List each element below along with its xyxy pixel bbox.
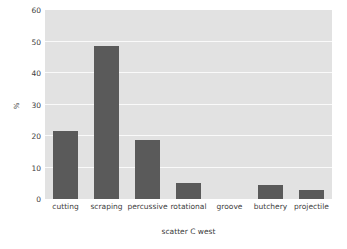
bar-series <box>45 10 332 199</box>
x-tick-label: groove <box>209 201 250 215</box>
y-axis-tick-labels: 0102030405060 <box>0 10 41 199</box>
bar[interactable] <box>299 190 324 199</box>
bar[interactable] <box>94 46 119 199</box>
x-axis-tick-labels: cuttingscrapingpercussiverotationalgroov… <box>45 201 332 215</box>
bar[interactable] <box>135 140 160 199</box>
y-tick-label: 40 <box>5 69 41 78</box>
x-axis-label: scatter C west <box>45 227 332 236</box>
bar[interactable] <box>53 131 78 199</box>
bar-slot <box>209 10 250 199</box>
y-tick-label: 20 <box>5 132 41 141</box>
y-tick-label: 50 <box>5 37 41 46</box>
bar-slot <box>250 10 291 199</box>
x-tick-label: scraping <box>86 201 127 215</box>
y-tick-label: 10 <box>5 163 41 172</box>
x-tick-label: projectile <box>291 201 332 215</box>
x-tick-label: percussive <box>127 201 168 215</box>
plot-area <box>45 10 332 199</box>
x-tick-label: cutting <box>45 201 86 215</box>
bar-slot <box>291 10 332 199</box>
y-tick-label: 0 <box>5 195 41 204</box>
bar-slot <box>127 10 168 199</box>
y-tick-label: 60 <box>5 6 41 15</box>
y-tick-label: 30 <box>5 100 41 109</box>
bar-slot <box>86 10 127 199</box>
bar[interactable] <box>176 183 201 199</box>
bar[interactable] <box>258 185 283 199</box>
bar-chart-figure: % 0102030405060 cuttingscrapingpercussiv… <box>0 0 347 249</box>
x-tick-label: rotational <box>168 201 209 215</box>
bar-slot <box>168 10 209 199</box>
bar-slot <box>45 10 86 199</box>
x-tick-label: butchery <box>250 201 291 215</box>
